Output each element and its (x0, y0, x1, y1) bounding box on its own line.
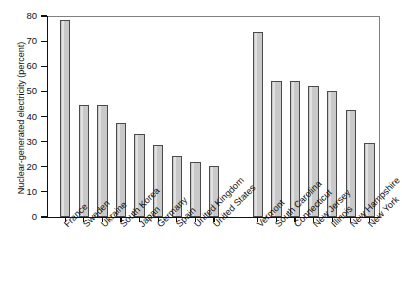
y-tick-mark (41, 191, 47, 192)
y-tick-label: 70 (0, 36, 37, 46)
y-tick-mark (41, 91, 47, 92)
y-tick-mark (41, 15, 47, 16)
bar (60, 20, 70, 217)
y-tick-label: 20 (0, 162, 37, 172)
y-tick-mark (41, 66, 47, 67)
y-tick-mark (41, 216, 47, 217)
y-tick-label: 60 (0, 61, 37, 71)
y-tick-label: 30 (0, 137, 37, 147)
y-tick-mark (41, 166, 47, 167)
y-tick-mark (41, 141, 47, 142)
bar (79, 105, 89, 217)
y-tick-mark (41, 116, 47, 117)
y-tick-label: 80 (0, 11, 37, 21)
y-tick-mark (41, 41, 47, 42)
y-tick-label: 50 (0, 86, 37, 96)
y-tick-label: 40 (0, 112, 37, 122)
y-tick-label: 0 (0, 212, 37, 222)
y-tick-label: 10 (0, 187, 37, 197)
bar (346, 110, 356, 217)
y-axis-line (47, 16, 48, 218)
